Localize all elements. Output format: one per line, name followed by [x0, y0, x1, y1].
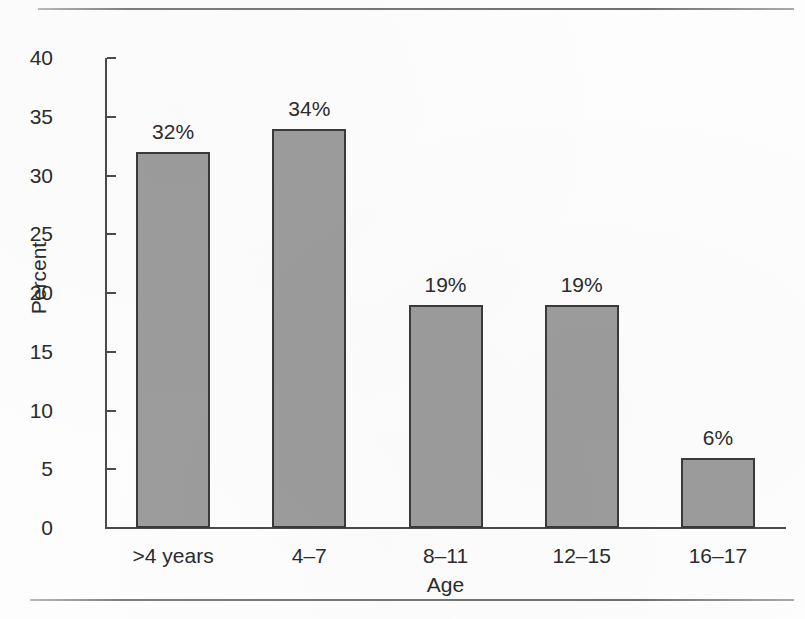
bar-value-label: 6% [658, 427, 778, 448]
y-axis-tick [107, 351, 116, 353]
bar [272, 129, 346, 529]
bar [409, 305, 483, 528]
y-axis-tick-label-text: 10 [11, 400, 53, 421]
y-axis-tick [107, 292, 116, 294]
x-axis-tick-label: 16–17 [638, 545, 798, 566]
bar-value-label: 19% [386, 274, 506, 295]
y-axis-tick [107, 175, 116, 177]
y-axis-tick-label-text: 5 [11, 458, 53, 479]
bar-value-label: 19% [522, 274, 642, 295]
y-axis-tick-label-text: 15 [11, 341, 53, 362]
y-axis-tick [107, 116, 116, 118]
x-axis-title: Age [386, 573, 506, 597]
y-axis-tick [107, 57, 116, 59]
y-axis-tick-label-text: 0 [11, 517, 53, 538]
y-axis-tick [107, 468, 116, 470]
y-axis-title: Percent [27, 218, 51, 338]
y-axis-tick-label-text: 40 [11, 47, 53, 68]
bar [681, 458, 755, 529]
y-axis-tick-label-text: 30 [11, 165, 53, 186]
y-axis-tick [107, 527, 116, 529]
y-axis-tick [107, 410, 116, 412]
bar [545, 305, 619, 528]
bar-chart-plot: 0510152025303540 Percent 32%34%19%19%6% … [0, 0, 805, 619]
bar-value-label: 34% [249, 98, 369, 119]
bar-value-label: 32% [113, 121, 233, 142]
y-axis-tick-label-text: 35 [11, 106, 53, 127]
bar [136, 152, 210, 528]
figure-container: 0510152025303540 Percent 32%34%19%19%6% … [0, 0, 805, 619]
y-axis-tick [107, 233, 116, 235]
